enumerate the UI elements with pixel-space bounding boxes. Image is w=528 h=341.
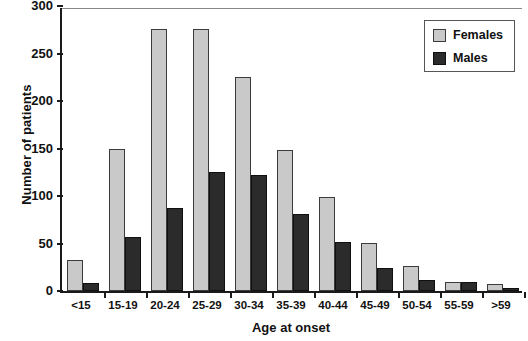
bar-group (146, 8, 188, 291)
bar-males (83, 283, 99, 291)
x-axis-label: 55-59 (438, 299, 480, 311)
x-axis-label: 20-24 (144, 299, 186, 311)
bar-females (487, 284, 503, 291)
legend-item-female: Females (433, 28, 503, 42)
bar-group (314, 8, 356, 291)
bar-males (293, 214, 309, 291)
bar-males (461, 282, 477, 292)
x-axis-label: 15-19 (102, 299, 144, 311)
x-tick-mark (314, 292, 316, 298)
bar-females (151, 29, 167, 291)
bar-females (67, 260, 83, 291)
y-tick-label: 250 (31, 46, 53, 61)
x-axis-label: 25-29 (186, 299, 228, 311)
legend-item-male: Males (433, 51, 488, 65)
bar-males (335, 242, 351, 291)
y-tick-label: 50 (39, 236, 53, 251)
x-axis-label: <15 (60, 299, 102, 311)
x-axis-label: 40-44 (312, 299, 354, 311)
bar-males (251, 175, 267, 291)
bar-females (109, 149, 125, 292)
x-tick-mark (104, 292, 106, 298)
y-tick-label: 300 (31, 0, 53, 13)
legend: FemalesMales (424, 20, 515, 72)
bar-group (62, 8, 104, 291)
bar-males (125, 237, 141, 291)
bar-group (272, 8, 314, 291)
bar-females (361, 243, 377, 291)
bar-chart: Number of patients 050100150200250300 Ag… (0, 0, 528, 341)
x-tick-mark (272, 292, 274, 298)
bar-males (419, 280, 435, 291)
x-tick-mark (356, 292, 358, 298)
bar-group (188, 8, 230, 291)
bar-males (167, 208, 183, 291)
x-axis-label: 35-39 (270, 299, 312, 311)
bar-females (403, 266, 419, 291)
bar-females (277, 150, 293, 291)
bar-group (356, 8, 398, 291)
bar-males (377, 268, 393, 291)
y-tick-mark (57, 5, 63, 7)
x-tick-mark (524, 292, 526, 298)
bar-females (193, 29, 209, 291)
x-axis-label: 50-54 (396, 299, 438, 311)
bar-females (319, 197, 335, 291)
x-axis-label: >59 (480, 299, 522, 311)
bar-females (445, 282, 461, 292)
bar-group (230, 8, 272, 291)
x-axis-title: Age at onset (60, 320, 522, 335)
x-tick-mark (398, 292, 400, 298)
x-tick-mark (146, 292, 148, 298)
y-tick-label: 100 (31, 188, 53, 203)
legend-label: Males (453, 51, 488, 65)
x-axis-label: 45-49 (354, 299, 396, 311)
legend-label: Females (453, 28, 503, 42)
y-tick-label: 150 (31, 141, 53, 156)
bar-males (209, 172, 225, 291)
y-tick-label: 200 (31, 93, 53, 108)
legend-swatch-male-icon (433, 52, 446, 65)
x-tick-mark (188, 292, 190, 298)
y-tick-label: 0 (46, 283, 53, 298)
x-axis-label: 30-34 (228, 299, 270, 311)
legend-swatch-female-icon (433, 29, 446, 42)
bar-males (503, 288, 519, 291)
x-tick-mark (230, 292, 232, 298)
x-tick-mark (482, 292, 484, 298)
bar-females (235, 77, 251, 291)
x-tick-mark (440, 292, 442, 298)
bar-group (104, 8, 146, 291)
